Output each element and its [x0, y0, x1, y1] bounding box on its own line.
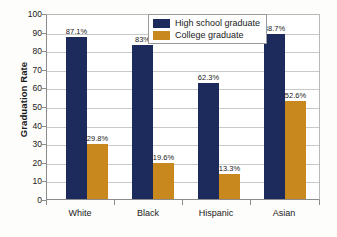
y-axis-tick-label: 80 — [18, 46, 42, 56]
legend-item-high-school-graduate[interactable]: High school graduate — [153, 18, 260, 28]
bar-black-high-school[interactable]: 83% — [132, 45, 153, 199]
bar-asian-high-school[interactable]: 88.7% — [264, 34, 285, 199]
bar-group-white: 87.1% 29.8% — [66, 15, 108, 199]
bar-group-asian: 88.7% 52.6% — [264, 15, 306, 199]
bar-white-college[interactable]: 29.8% — [87, 144, 108, 199]
legend-item-college-graduate[interactable]: College graduate — [153, 30, 260, 40]
bar-value-label: 29.8% — [87, 134, 108, 143]
y-axis-tick-label: 20 — [18, 158, 42, 168]
legend-swatch-icon — [153, 31, 170, 40]
bar-value-label: 87.1% — [66, 27, 87, 36]
x-axis-category-black: Black — [113, 208, 183, 218]
legend-label: High school graduate — [175, 18, 260, 28]
bar-value-label: 19.6% — [153, 153, 174, 162]
x-axis-tick-mark — [114, 200, 115, 205]
x-axis-tick-mark — [182, 200, 183, 205]
y-axis-tick-label: 30 — [18, 139, 42, 149]
bar-hispanic-high-school[interactable]: 62.3% — [198, 83, 219, 199]
y-axis-tick-label: 10 — [18, 176, 42, 186]
y-axis-tick-label: 60 — [18, 83, 42, 93]
bar-value-label: 62.3% — [198, 73, 219, 82]
x-axis-tick-mark — [46, 200, 47, 205]
x-axis-tick-mark — [250, 200, 251, 205]
x-axis-category-hispanic: Hispanic — [181, 208, 251, 218]
bar-white-high-school[interactable]: 87.1% — [66, 37, 87, 199]
bar-hispanic-college[interactable]: 13.3% — [219, 174, 240, 199]
bar-value-label: 13.3% — [219, 164, 240, 173]
y-axis-tick-label: 0 — [18, 195, 42, 205]
bar-black-college[interactable]: 19.6% — [153, 163, 174, 199]
x-axis-category-white: White — [45, 208, 115, 218]
y-axis-tick-label: 70 — [18, 65, 42, 75]
y-axis-tick-label: 100 — [18, 9, 42, 19]
bar-chart: Graduation Rate 100 90 80 70 60 50 40 30… — [0, 0, 337, 237]
y-axis-tick-label: 90 — [18, 28, 42, 38]
bar-asian-college[interactable]: 52.6% — [285, 101, 306, 199]
y-axis-tick-label: 50 — [18, 102, 42, 112]
y-axis-tick-label: 40 — [18, 121, 42, 131]
legend: High school graduate College graduate — [148, 14, 267, 44]
legend-label: College graduate — [175, 30, 244, 40]
x-axis-tick-mark — [319, 200, 320, 205]
bar-value-label: 52.6% — [285, 91, 306, 100]
legend-swatch-icon — [153, 19, 170, 28]
x-axis-category-asian: Asian — [249, 208, 319, 218]
